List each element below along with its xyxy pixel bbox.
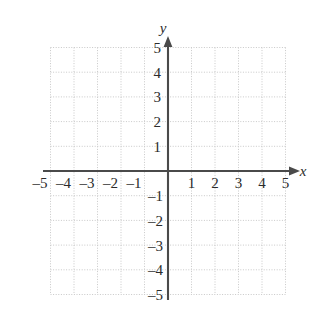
y-tick-label-neg2: –2 xyxy=(147,213,163,229)
x-tick-label-neg5: –5 xyxy=(32,175,48,191)
y-tick-label-1: 1 xyxy=(154,139,162,155)
y-tick-label-neg5: –5 xyxy=(147,287,163,303)
y-tick-label-neg3: –3 xyxy=(147,238,163,254)
graph-canvas: x y –5 –4 –3 –2 –1 1 2 3 4 5 5 4 3 2 1 –… xyxy=(0,0,321,320)
x-tick-label-3: 3 xyxy=(235,175,243,191)
x-tick-label-5: 5 xyxy=(282,175,290,191)
y-tick-label-neg4: –4 xyxy=(147,262,164,278)
y-tick-label-3: 3 xyxy=(154,89,162,105)
x-tick-label-neg4: –4 xyxy=(55,175,72,191)
y-tick-label-2: 2 xyxy=(154,114,162,130)
x-axis-arrowhead xyxy=(289,167,300,176)
coordinate-plane-figure: x y –5 –4 –3 –2 –1 1 2 3 4 5 5 4 3 2 1 –… xyxy=(0,0,321,320)
x-tick-label-2: 2 xyxy=(211,175,219,191)
y-tick-label-neg1: –1 xyxy=(147,188,163,204)
y-tick-label-5: 5 xyxy=(154,40,162,56)
y-axis-label: y xyxy=(158,20,167,36)
y-tick-label-4: 4 xyxy=(154,65,162,81)
axis-lines xyxy=(43,40,296,300)
x-tick-label-neg2: –2 xyxy=(102,175,118,191)
x-axis-label: x xyxy=(299,163,307,179)
x-tick-label-4: 4 xyxy=(258,175,266,191)
x-tick-label-1: 1 xyxy=(188,175,196,191)
x-tick-label-neg3: –3 xyxy=(79,175,95,191)
y-axis-arrowhead xyxy=(164,36,173,47)
x-tick-label-neg1: –1 xyxy=(126,175,142,191)
